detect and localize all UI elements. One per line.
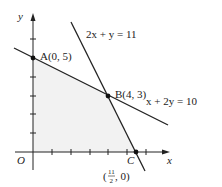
equation-label-line2: x + 2y = 10: [146, 95, 197, 107]
svg-text:2: 2: [110, 177, 114, 185]
point-c-coordinate-label: ( 11 2 , 0): [103, 168, 130, 185]
x-axis-label: x: [166, 154, 172, 166]
point-c-label: C: [127, 154, 135, 166]
point-b: [106, 94, 111, 99]
svg-text:, 0): , 0): [115, 170, 130, 183]
feasible-region: [33, 58, 136, 152]
point-a-label: A(0, 5): [40, 50, 72, 63]
svg-text:(: (: [103, 170, 107, 183]
equation-label-line1: 2x + y = 11: [86, 28, 137, 40]
diagram-canvas: y x O 2x + y = 11 x + 2y = 10 A(0, 5) B(…: [0, 0, 222, 187]
origin-label: O: [17, 154, 25, 166]
y-axis-label: y: [17, 10, 23, 22]
point-b-label: B(4, 3): [115, 88, 147, 101]
point-a: [31, 56, 36, 61]
y-axis-arrow-icon: [31, 13, 36, 21]
